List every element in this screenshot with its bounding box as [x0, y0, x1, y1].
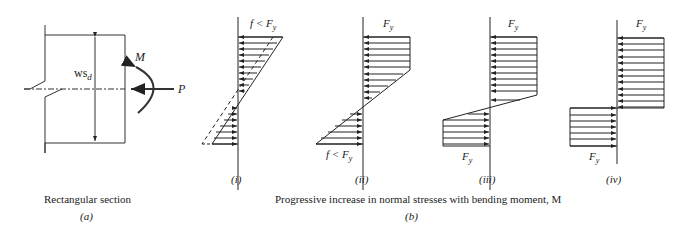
diagram-iii-top-label: Fy	[508, 17, 518, 32]
label-subscript: y	[515, 23, 519, 32]
diagram-iii-label: (iii)	[479, 173, 496, 185]
part-a-label: (a)	[80, 210, 93, 222]
force-label: P	[178, 82, 185, 97]
part-a-caption: Rectangular section	[44, 193, 131, 205]
stress-diagram-ii	[316, 17, 410, 190]
stress-diagram-i	[202, 17, 283, 190]
label-text: F	[636, 17, 643, 29]
label-text: f < F	[326, 148, 349, 160]
label-text: F	[462, 150, 469, 162]
part-b-caption: Progressive increase in normal stresses …	[275, 193, 561, 205]
label-subscript: y	[469, 156, 473, 165]
stress-diagram-iii	[443, 17, 537, 190]
diagram-ii-bottom-label: f < Fy	[326, 148, 352, 163]
diagram-i-top-label: f < Fy	[250, 17, 276, 32]
diagram-iv-top-label: Fy	[636, 17, 646, 32]
label-text: F	[508, 17, 515, 29]
label-subscript: y	[390, 23, 394, 32]
label-text: F	[383, 17, 390, 29]
diagram-iv-bottom-label: Fy	[589, 150, 599, 165]
diagram-ii-top-label: Fy	[383, 17, 393, 32]
label-subscript: y	[273, 23, 277, 32]
diagram-i-label: (i)	[231, 173, 241, 185]
dimension-subscript: d	[87, 72, 92, 82]
label-subscript: y	[643, 23, 647, 32]
dimension-label: wsd	[74, 66, 92, 82]
diagram-iii-bottom-label: Fy	[462, 150, 472, 165]
label-text: F	[589, 150, 596, 162]
rectangular-section	[24, 25, 174, 153]
label-text: f < F	[250, 17, 273, 29]
diagram-iv-label: (iv)	[606, 173, 621, 185]
moment-label: M	[135, 50, 145, 65]
stress-diagram-iv	[570, 20, 664, 164]
diagram-ii-label: (ii)	[355, 173, 368, 185]
part-b-label: (b)	[405, 210, 418, 222]
label-subscript: y	[349, 154, 353, 163]
dimension-text: ws	[74, 66, 87, 80]
label-subscript: y	[596, 156, 600, 165]
